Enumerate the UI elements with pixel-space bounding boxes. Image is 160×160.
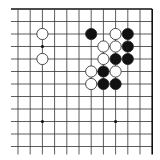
black-stone (122, 53, 133, 64)
black-stone (86, 28, 97, 39)
black-stone (122, 41, 133, 52)
go-board (0, 0, 160, 160)
black-stone (98, 66, 109, 77)
white-stone (98, 41, 109, 52)
black-stone (122, 28, 133, 39)
black-stone (98, 78, 109, 89)
star-point (114, 120, 117, 123)
star-point (41, 45, 44, 48)
white-stone (86, 66, 97, 77)
star-point (41, 120, 44, 123)
white-stone (37, 28, 48, 39)
white-stone (37, 53, 48, 64)
white-stone (98, 53, 109, 64)
go-board-diagram (0, 0, 160, 160)
black-stone (110, 78, 121, 89)
black-stone (110, 53, 121, 64)
white-stone (110, 41, 121, 52)
white-stone (110, 66, 121, 77)
white-stone (110, 28, 121, 39)
white-stone (86, 78, 97, 89)
